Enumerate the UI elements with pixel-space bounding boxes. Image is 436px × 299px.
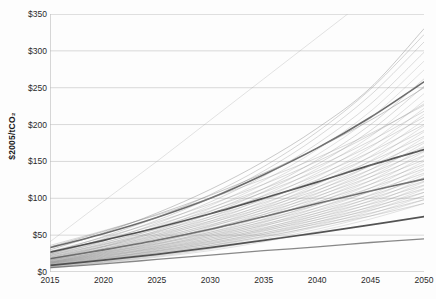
y-tick-label: $250 — [28, 83, 47, 93]
x-tick-label: 2045 — [361, 275, 380, 285]
y-tick-label: $300 — [28, 46, 47, 56]
carbon-price-chart: $2005/tCO₂ $0$50$100$150$200$250$300$350… — [0, 0, 436, 299]
y-axis-tick-labels: $0$50$100$150$200$250$300$350 — [0, 0, 47, 299]
x-tick-label: 2035 — [254, 275, 273, 285]
x-tick-label: 2020 — [94, 275, 113, 285]
y-tick-label: $100 — [28, 193, 47, 203]
x-tick-label: 2025 — [147, 275, 166, 285]
x-tick-label: 2030 — [201, 275, 220, 285]
x-tick-label: 2040 — [308, 275, 327, 285]
y-tick-label: $350 — [28, 9, 47, 19]
y-tick-label: $200 — [28, 120, 47, 130]
x-tick-label: 2015 — [41, 275, 60, 285]
spaghetti-lines-svg — [50, 14, 424, 272]
y-tick-label: $150 — [28, 156, 47, 166]
x-tick-label: 2050 — [415, 275, 434, 285]
plot-area — [50, 14, 424, 272]
y-tick-label: $50 — [33, 230, 47, 240]
series-lines — [50, 14, 424, 268]
